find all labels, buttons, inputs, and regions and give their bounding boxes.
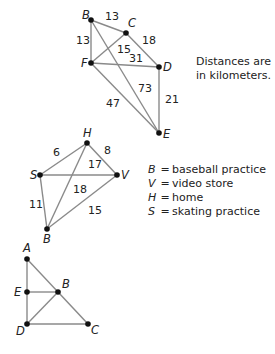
- edge-weight-HV: 8: [104, 144, 111, 157]
- edge-weight-CD: 18: [142, 34, 156, 47]
- vertex-B: [44, 226, 50, 232]
- legend-value: baseball practice: [172, 163, 266, 176]
- distance-graph: 1313151831734721BCFDE: [76, 8, 179, 141]
- edge-weight-FD: 31: [129, 52, 143, 65]
- legend-key: V: [148, 177, 158, 191]
- vertex-label-A: A: [22, 241, 31, 255]
- vertex-label-B: B: [62, 277, 70, 291]
- vertex-F: [88, 60, 94, 66]
- vertex-label-E: E: [14, 285, 22, 299]
- edge-weight-BF: 13: [76, 34, 90, 47]
- vertex-B: [55, 289, 61, 295]
- legend-row-baseball: B=baseball practice: [148, 163, 266, 177]
- vertex-label-B: B: [82, 8, 90, 22]
- vertex-label-F: F: [81, 56, 88, 70]
- edge-weight-BE: 73: [138, 82, 152, 95]
- edge-weight-HS: 6: [53, 146, 60, 159]
- edge-FD: [91, 63, 159, 67]
- legend-value: video store: [172, 177, 233, 190]
- edge-weight-SB: 11: [29, 198, 43, 211]
- vertex-label-D: D: [163, 60, 172, 74]
- units-note-line1: Distances are: [196, 55, 271, 69]
- edge-weight-VB: 15: [88, 204, 102, 217]
- legend-equals: =: [158, 163, 172, 177]
- units-note-line2: in kilometers.: [196, 69, 271, 83]
- vertex-D: [156, 64, 162, 70]
- vertex-label-C: C: [128, 16, 136, 30]
- vertex-label-V: V: [121, 168, 130, 182]
- vertex-label-B: B: [43, 232, 51, 246]
- legend-equals: =: [158, 191, 172, 205]
- vertex-E: [24, 289, 30, 295]
- legend-key: H: [148, 191, 158, 205]
- vertex-legend: B=baseball practice V=video store H=home…: [148, 163, 266, 219]
- vertex-label-S: S: [30, 168, 37, 182]
- legend-row-video: V=video store: [148, 177, 266, 191]
- vertex-E: [156, 130, 162, 136]
- legend-key: B: [148, 163, 158, 177]
- edge-weight-HB: 18: [73, 183, 87, 196]
- legend-row-home: H=home: [148, 191, 266, 205]
- legend-value: skating practice: [172, 205, 260, 218]
- edge-BC: [58, 292, 88, 324]
- legend-key: S: [148, 205, 158, 219]
- edge-AB: [27, 259, 58, 292]
- vertex-V: [114, 172, 120, 178]
- vertex-H: [84, 140, 90, 146]
- vertex-C: [85, 321, 91, 327]
- vertex-A: [24, 256, 30, 262]
- edge-weight-DE: 21: [165, 93, 179, 106]
- errand-graph: 6817181115HSVB: [29, 126, 130, 246]
- vertex-label-D: D: [16, 324, 25, 338]
- edge-DB: [27, 292, 58, 324]
- edge-FE: [91, 63, 159, 133]
- legend-equals: =: [158, 177, 172, 191]
- edge-weight-SV: 17: [88, 158, 102, 171]
- legend-value: home: [172, 191, 203, 204]
- legend-equals: =: [158, 205, 172, 219]
- edge-weight-BC: 13: [105, 10, 119, 23]
- vertex-label-H: H: [83, 126, 92, 140]
- edge-weight-FE: 47: [106, 97, 120, 110]
- vertex-label-C: C: [91, 323, 99, 337]
- legend-row-skating: S=skating practice: [148, 205, 266, 219]
- units-note: Distances are in kilometers.: [196, 55, 271, 83]
- triangle-graph: AEBDC: [14, 241, 99, 338]
- vertex-label-E: E: [163, 127, 171, 141]
- vertex-D: [24, 321, 30, 327]
- vertex-C: [123, 30, 129, 36]
- vertex-S: [37, 172, 43, 178]
